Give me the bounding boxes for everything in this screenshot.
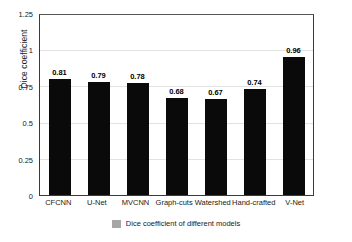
x-tick-label: V-Net (275, 198, 314, 207)
y-tick-label: 1.25 (8, 10, 36, 19)
y-tick-label: 1 (8, 46, 36, 55)
x-tick-label: Watershed (193, 198, 232, 207)
plot-area: 0.810.790.780.680.670.740.96 (39, 14, 314, 196)
bar-value-label: 0.81 (52, 68, 67, 77)
x-tick-label: MVCNN (116, 198, 155, 207)
bar[interactable] (49, 79, 71, 195)
y-axis-tick-labels: 00.250.50.7511.25 (8, 8, 36, 198)
bar-value-label: 0.79 (91, 71, 106, 80)
x-tick-label: Hand-crafted (232, 198, 275, 207)
bar[interactable] (166, 98, 188, 195)
legend-label: Dice coefficient of different models (126, 219, 240, 228)
bar-slot: 0.96 (274, 15, 313, 195)
bar-slot: 0.79 (79, 15, 118, 195)
bar-slot: 0.74 (235, 15, 274, 195)
bar-slot: 0.68 (157, 15, 196, 195)
x-tick-label: CFCNN (39, 198, 78, 207)
bar-value-label: 0.78 (130, 72, 145, 81)
bar-chart: Dice coefficient 00.250.50.7511.25 0.810… (0, 0, 352, 242)
bar-slot: 0.67 (196, 15, 235, 195)
bar-value-label: 0.74 (247, 78, 262, 87)
x-tick-label: Graph-cuts (155, 198, 194, 207)
bar[interactable] (283, 57, 305, 195)
bar-value-label: 0.68 (169, 87, 184, 96)
x-axis-tick-labels: CFCNNU-NetMVCNNGraph-cutsWatershedHand-c… (39, 198, 314, 207)
y-tick-label: 0.75 (8, 82, 36, 91)
bar-slot: 0.78 (118, 15, 157, 195)
legend-swatch-icon (112, 220, 121, 228)
bar-value-label: 0.96 (286, 46, 301, 55)
y-tick-label: 0.5 (8, 119, 36, 128)
bar[interactable] (88, 82, 110, 195)
bar-series: 0.810.790.780.680.670.740.96 (40, 15, 313, 195)
bar-slot: 0.81 (40, 15, 79, 195)
bar[interactable] (205, 99, 227, 195)
legend: Dice coefficient of different models (0, 219, 352, 228)
y-tick-label: 0.25 (8, 155, 36, 164)
bar-value-label: 0.67 (208, 88, 223, 97)
bar[interactable] (244, 89, 266, 195)
x-tick-label: U-Net (78, 198, 117, 207)
bar[interactable] (127, 83, 149, 195)
y-tick-label: 0 (8, 192, 36, 201)
